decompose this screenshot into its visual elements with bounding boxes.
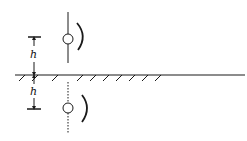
image-circle-icon (63, 103, 73, 113)
wave-arc-icon (82, 95, 87, 122)
real-source (63, 12, 83, 63)
image-source-diagram: h h (0, 0, 247, 141)
dimension-lower: h (27, 76, 41, 109)
dimension-upper: h (28, 37, 41, 74)
height-label: h (30, 48, 37, 61)
ground-hatching (19, 75, 161, 81)
height-label: h (30, 85, 37, 98)
wave-arc-icon (77, 23, 83, 50)
image-source (63, 82, 87, 133)
source-circle-icon (63, 34, 73, 44)
ground-plane (15, 75, 245, 81)
